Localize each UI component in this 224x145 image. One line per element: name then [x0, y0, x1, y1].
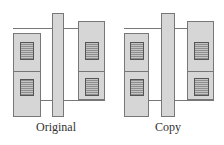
right-cell-divider: [79, 71, 104, 72]
contact-square: [194, 42, 209, 60]
left-diffusion-cell: [124, 33, 149, 117]
caption-copy: Copy: [112, 120, 224, 135]
figure-copy: Copy: [112, 0, 224, 145]
left-diffusion-cell: [13, 33, 41, 117]
contact-square: [194, 78, 209, 96]
left-cell-divider: [14, 71, 40, 72]
right-cell-divider: [188, 71, 213, 72]
gate-bar: [161, 13, 175, 117]
contact-square: [85, 78, 99, 96]
left-cell-divider: [125, 71, 148, 72]
caption-original: Original: [0, 120, 112, 135]
contact-square: [130, 79, 144, 96]
figure-original: Original: [0, 0, 112, 145]
right-diffusion-cell: [187, 21, 214, 100]
right-diffusion-cell: [78, 21, 105, 100]
contact-square: [20, 42, 34, 60]
gate-bar: [52, 13, 64, 117]
contact-square: [130, 42, 144, 60]
contact-square: [20, 79, 34, 96]
contact-square: [85, 42, 99, 60]
